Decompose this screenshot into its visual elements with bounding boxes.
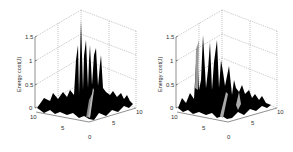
left-axis-tick-5: 5 <box>61 125 64 131</box>
surface-plot-right: 1.5 1 0.5 0 Energy cost(J) 10 5 0 5 10 <box>141 0 287 152</box>
left-axis-tick-0: 0 <box>88 134 91 140</box>
left-axis-tick-0: 0 <box>227 134 230 140</box>
right-axis-tick-5: 5 <box>112 120 115 126</box>
z-tick-0.5: 0.5 <box>166 82 174 88</box>
energy-surface-right <box>178 35 271 119</box>
plot-canvas-right <box>141 0 293 152</box>
z-tick-1.5: 1.5 <box>25 34 33 40</box>
z-tick-1: 1 <box>29 58 32 64</box>
z-ticks <box>176 36 178 108</box>
z-tick-0: 0 <box>170 105 173 111</box>
energy-surface-left <box>37 20 133 120</box>
z-axis-label: Energy cost(J) <box>16 57 22 92</box>
z-tick-1.5: 1.5 <box>166 34 174 40</box>
z-axis-label: Energy cost(J) <box>157 57 163 92</box>
right-axis-tick-5: 5 <box>251 120 254 126</box>
left-axis-tick-5: 5 <box>202 125 205 131</box>
z-tick-0: 0 <box>29 105 32 111</box>
left-axis-tick-10: 10 <box>30 114 37 120</box>
left-axis-tick-10: 10 <box>171 114 178 120</box>
z-tick-1: 1 <box>170 58 173 64</box>
z-tick-0.5: 0.5 <box>25 82 33 88</box>
right-axis-tick-10: 10 <box>277 109 284 115</box>
surface-plot-left: 1.5 1 0.5 0 Energy cost(J) 10 5 0 5 10 <box>0 0 146 152</box>
